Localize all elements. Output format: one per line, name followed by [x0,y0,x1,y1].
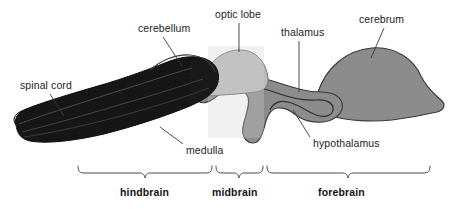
label-cerebellum: cerebellum [138,23,190,34]
label-medulla: medulla [186,145,223,156]
midbrain-band [208,46,264,138]
region-label-midbrain: midbrain [212,186,258,198]
bracket-hindbrain [78,166,212,178]
label-spinal-cord: spinal cord [20,80,72,91]
figure-canvas: spinal cord cerebellum optic lobe thalam… [0,0,458,209]
label-optic-lobe: optic lobe [215,9,261,20]
label-cerebrum: cerebrum [359,14,404,25]
region-brackets [78,166,430,178]
label-thalamus: thalamus [281,27,324,38]
region-label-forebrain: forebrain [318,186,365,198]
label-hypothalamus: hypothalamus [313,138,380,149]
brain-diagram-svg [0,0,458,209]
hindbrain-mass [14,55,219,142]
region-label-hindbrain: hindbrain [120,186,169,198]
leader-medulla [160,127,183,144]
bracket-midbrain [216,166,263,178]
bracket-forebrain [267,166,430,178]
